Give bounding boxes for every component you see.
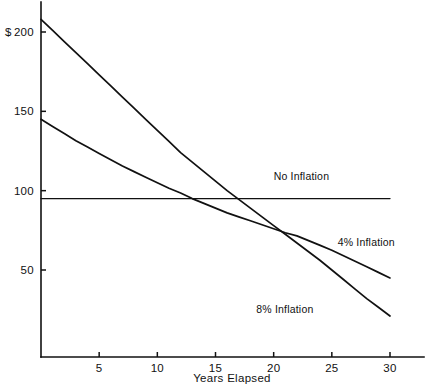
y-axis-unit-label: $ — [5, 26, 12, 38]
chart-axes — [41, 2, 424, 357]
y-tick-label-200: 200 — [14, 26, 34, 38]
y-tick-label-100: 100 — [14, 185, 34, 197]
chart-series-labels: No Inflation4% Inflation8% Inflation — [256, 170, 395, 315]
x-tick-label-25: 25 — [325, 362, 338, 374]
y-tick-label-50: 50 — [21, 264, 34, 276]
x-tick-label-30: 30 — [383, 362, 396, 374]
series-label-8-inflation: 8% Inflation — [256, 303, 313, 315]
y-axis-tick-labels: 50100150200 — [14, 26, 34, 276]
x-axis-title: Years Elapsed — [193, 372, 271, 384]
chart-series-lines — [41, 19, 390, 316]
x-tick-label-10: 10 — [151, 362, 164, 374]
y-tick-label-150: 150 — [14, 105, 34, 117]
x-tick-label-5: 5 — [96, 362, 103, 374]
series-label-no-inflation: No Inflation — [274, 170, 330, 182]
chart-canvas: 50100150200 51015202530 No Inflation4% I… — [0, 0, 429, 387]
inflation-chart: 50100150200 51015202530 No Inflation4% I… — [0, 0, 429, 387]
series-line-8-inflation — [41, 19, 390, 316]
series-label-4-inflation: 4% Inflation — [338, 236, 395, 248]
